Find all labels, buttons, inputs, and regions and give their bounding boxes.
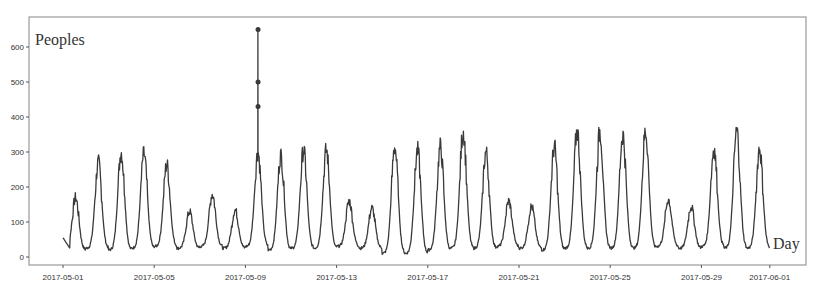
x-tick-label: 2017-05-13	[316, 273, 357, 282]
x-axis-label: Day	[773, 235, 800, 253]
line-chart: 0100200300400500600 2017-05-012017-05-05…	[0, 0, 817, 294]
x-tick-label: 2017-05-01	[43, 273, 84, 282]
y-tick-label: 0	[20, 253, 25, 262]
y-tick-label: 300	[11, 148, 25, 157]
y-tick-label: 400	[11, 113, 25, 122]
x-tick-label: 2017-05-09	[225, 273, 266, 282]
x-tick-label: 2017-05-25	[590, 273, 631, 282]
x-tick-label: 2017-05-17	[407, 273, 448, 282]
spike-marker	[256, 104, 261, 109]
y-axis-label: Peoples	[35, 31, 85, 49]
y-tick-label: 200	[11, 183, 25, 192]
spike-marker	[256, 27, 261, 32]
y-tick-label: 100	[11, 218, 25, 227]
x-tick-label: 2017-06-01	[749, 273, 790, 282]
y-axis: 0100200300400500600	[11, 43, 29, 262]
x-tick-label: 2017-05-05	[134, 273, 175, 282]
people-count-line	[63, 30, 769, 255]
spike-marker	[256, 80, 261, 85]
y-tick-label: 600	[11, 43, 25, 52]
y-tick-label: 500	[11, 78, 25, 87]
x-tick-label: 2017-05-21	[499, 273, 540, 282]
x-axis: 2017-05-012017-05-052017-05-092017-05-13…	[43, 265, 791, 282]
x-tick-label: 2017-05-29	[681, 273, 722, 282]
